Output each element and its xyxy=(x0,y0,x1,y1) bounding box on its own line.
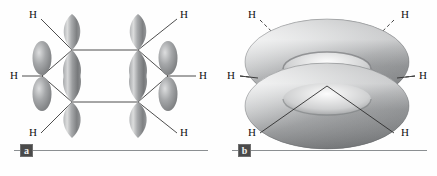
atom-label-h: H xyxy=(227,70,235,81)
atom-label-h: H xyxy=(401,127,409,138)
panel-label-badge-b: b xyxy=(238,144,251,157)
figure-root: H H H H H H a xyxy=(0,0,437,176)
p-orbital-lobe xyxy=(33,41,52,75)
atom-label-h: H xyxy=(199,70,207,81)
p-orbital-lobe xyxy=(159,41,178,75)
atom-label-h: H xyxy=(419,70,427,81)
pi-cloud-torus-lower xyxy=(245,63,409,149)
panel-a: H H H H H H a xyxy=(0,0,218,176)
atom-label-h: H xyxy=(29,127,37,138)
p-orbital-lobe xyxy=(63,102,80,138)
atom-label-h: H xyxy=(10,70,18,81)
p-orbital-lobe xyxy=(129,102,146,138)
ch-bond-group xyxy=(22,19,196,133)
atom-label-h: H xyxy=(180,127,188,138)
caption-rule xyxy=(232,150,427,151)
caption-rule xyxy=(14,150,208,151)
panel-a-caption: a xyxy=(14,144,208,158)
panel-label-badge-a: a xyxy=(20,144,33,157)
p-orbital-lobe xyxy=(33,77,52,111)
p-orbital xyxy=(129,64,147,138)
panel-b-caption: b xyxy=(232,144,427,158)
ring-bond-group xyxy=(42,50,168,102)
p-orbital xyxy=(63,64,81,138)
p-orbital-lobe xyxy=(159,77,178,111)
atom-label-h: H xyxy=(29,9,37,20)
atom-label-h: H xyxy=(180,9,188,20)
panel-b: H H H H H H b xyxy=(218,0,437,176)
atom-label-h: H xyxy=(248,9,256,20)
p-orbital-lobe xyxy=(130,14,147,50)
atom-label-h: H xyxy=(248,127,256,138)
atom-label-h: H xyxy=(401,9,409,20)
